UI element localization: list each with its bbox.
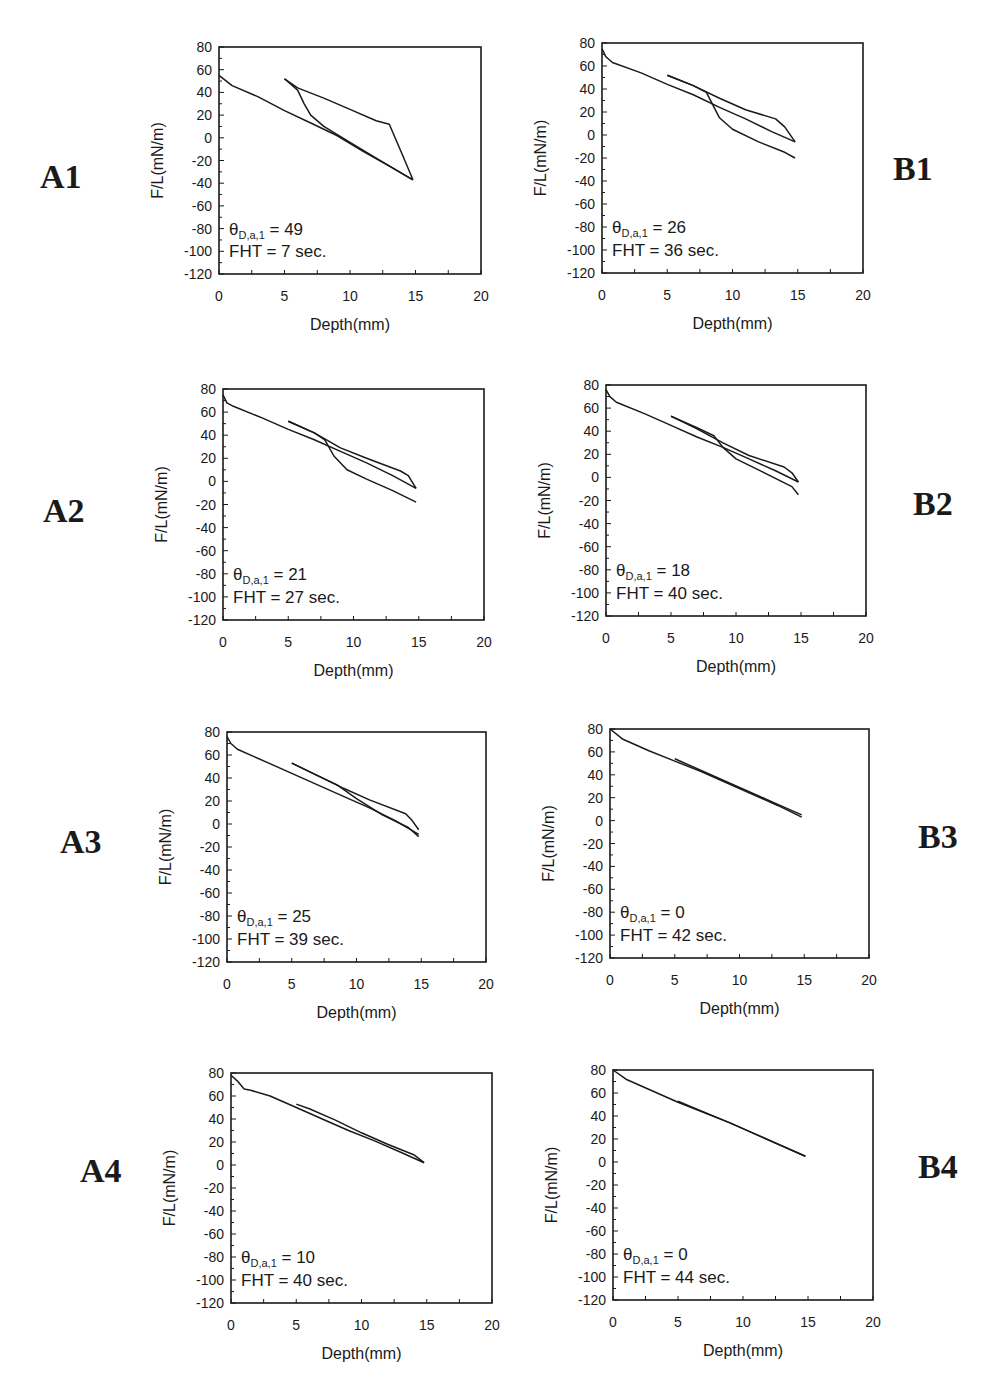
x-tick-label: 10 [728, 630, 744, 646]
x-tick-label: 10 [354, 1317, 370, 1333]
y-axis-title: F/L(mN/m) [149, 122, 166, 198]
x-tick-label: 0 [609, 1314, 617, 1330]
panel-label-B1: B1 [893, 150, 933, 188]
y-tick-label: -80 [204, 1249, 224, 1265]
y-tick-label: -40 [575, 173, 595, 189]
y-tick-label: 80 [196, 39, 212, 55]
contact-angle-annotation: θD,a,1 = 26 [612, 218, 686, 239]
contact-angle-annotation: θD,a,1 = 18 [616, 561, 690, 582]
y-tick-label: 20 [590, 1131, 606, 1147]
series-receding [675, 759, 802, 815]
chart-svg: 806040200-20-40-60-80-100-12005101520Dep… [538, 1060, 883, 1375]
x-tick-label: 20 [484, 1317, 500, 1333]
panel-label-A4: A4 [80, 1152, 122, 1190]
series-receding [285, 79, 413, 180]
y-tick-label: 80 [587, 721, 603, 737]
y-tick-label: -20 [204, 1180, 224, 1196]
y-tick-label: -120 [578, 1292, 606, 1308]
y-tick-label: 40 [200, 427, 216, 443]
chart-svg: 806040200-20-40-60-80-100-12005101520Dep… [156, 1063, 502, 1378]
chart-B2: 806040200-20-40-60-80-100-12005101520Dep… [531, 375, 876, 695]
x-tick-label: 0 [227, 1317, 235, 1333]
x-tick-label: 15 [800, 1314, 816, 1330]
y-tick-label: -40 [586, 1200, 606, 1216]
y-tick-label: -80 [579, 562, 599, 578]
y-tick-label: -120 [192, 954, 220, 970]
contact-angle-annotation: θD,a,1 = 10 [241, 1248, 315, 1269]
y-tick-label: -120 [567, 265, 595, 281]
x-axis-title: Depth(mm) [696, 658, 776, 675]
y-tick-label: -40 [196, 520, 216, 536]
y-tick-label: 40 [579, 81, 595, 97]
y-tick-label: -100 [188, 589, 216, 605]
y-tick-label: 60 [587, 744, 603, 760]
x-tick-label: 10 [735, 1314, 751, 1330]
chart-svg: 806040200-20-40-60-80-100-12005101520Dep… [144, 37, 491, 349]
series-readvancing [667, 75, 795, 158]
y-axis-title: F/L(mN/m) [543, 1147, 560, 1223]
y-tick-label: -80 [192, 221, 212, 237]
contact-angle-annotation: θD,a,1 = 21 [233, 565, 307, 586]
fht-annotation: FHT = 36 sec. [612, 241, 719, 260]
x-axis-title: Depth(mm) [321, 1345, 401, 1362]
panel-label-B4: B4 [918, 1148, 958, 1186]
chart-A2: 806040200-20-40-60-80-100-12005101520Dep… [148, 379, 494, 699]
contact-angle-annotation: θD,a,1 = 0 [623, 1245, 688, 1266]
panel-label-A3: A3 [60, 823, 102, 861]
y-tick-label: -40 [579, 516, 599, 532]
y-tick-label: -40 [583, 858, 603, 874]
y-tick-label: -60 [204, 1226, 224, 1242]
y-tick-label: -100 [578, 1269, 606, 1285]
x-tick-label: 15 [419, 1317, 435, 1333]
chart-B4: 806040200-20-40-60-80-100-12005101520Dep… [538, 1060, 883, 1379]
y-tick-label: 60 [583, 400, 599, 416]
x-tick-label: 5 [288, 976, 296, 992]
x-tick-label: 5 [663, 287, 671, 303]
fht-annotation: FHT = 44 sec. [623, 1268, 730, 1287]
x-tick-label: 0 [223, 976, 231, 992]
y-tick-label: 60 [204, 747, 220, 763]
chart-svg: 806040200-20-40-60-80-100-12005101520Dep… [148, 379, 494, 695]
x-tick-label: 5 [284, 634, 292, 650]
fht-annotation: FHT = 40 sec. [241, 1271, 348, 1290]
y-tick-label: -20 [200, 839, 220, 855]
y-tick-label: -40 [200, 862, 220, 878]
y-tick-label: 80 [583, 377, 599, 393]
fht-annotation: FHT = 39 sec. [237, 930, 344, 949]
y-tick-label: 80 [579, 35, 595, 51]
y-tick-label: 20 [200, 450, 216, 466]
y-tick-label: -20 [196, 497, 216, 513]
x-tick-label: 5 [674, 1314, 682, 1330]
y-tick-label: -80 [196, 566, 216, 582]
y-tick-label: -80 [575, 219, 595, 235]
x-tick-label: 20 [861, 972, 877, 988]
y-tick-label: -120 [196, 1295, 224, 1311]
chart-svg: 806040200-20-40-60-80-100-12005101520Dep… [527, 33, 873, 348]
panel-label-A2: A2 [43, 492, 85, 530]
x-tick-label: 15 [796, 972, 812, 988]
y-tick-label: 40 [590, 1108, 606, 1124]
y-tick-label: -60 [583, 881, 603, 897]
series-advancing [223, 395, 416, 489]
y-tick-label: 40 [583, 423, 599, 439]
y-tick-label: 0 [216, 1157, 224, 1173]
y-tick-label: 20 [587, 790, 603, 806]
x-tick-label: 15 [408, 288, 424, 304]
chart-A1: 806040200-20-40-60-80-100-12005101520Dep… [144, 37, 491, 353]
x-axis-title: Depth(mm) [310, 316, 390, 333]
y-tick-label: -20 [583, 836, 603, 852]
y-tick-label: -100 [571, 585, 599, 601]
y-tick-label: -120 [184, 266, 212, 282]
y-tick-label: 60 [200, 404, 216, 420]
y-tick-label: 0 [587, 127, 595, 143]
y-tick-label: 20 [208, 1134, 224, 1150]
y-tick-label: 0 [204, 130, 212, 146]
y-tick-label: 40 [204, 770, 220, 786]
y-tick-label: 0 [598, 1154, 606, 1170]
x-axis-title: Depth(mm) [699, 1000, 779, 1017]
series-readvancing [288, 421, 416, 502]
y-tick-label: -20 [579, 493, 599, 509]
contact-angle-annotation: θD,a,1 = 25 [237, 907, 311, 928]
y-tick-label: -80 [586, 1246, 606, 1262]
chart-A3: 806040200-20-40-60-80-100-12005101520Dep… [152, 722, 496, 1041]
